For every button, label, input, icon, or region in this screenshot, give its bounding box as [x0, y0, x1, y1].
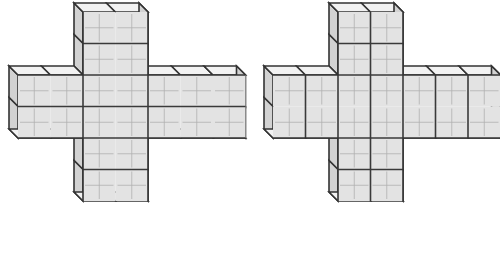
left-figure	[9, 3, 246, 201]
block-figures-drawing	[0, 0, 500, 262]
right-figure	[264, 3, 500, 201]
figure-canvas	[0, 0, 500, 262]
